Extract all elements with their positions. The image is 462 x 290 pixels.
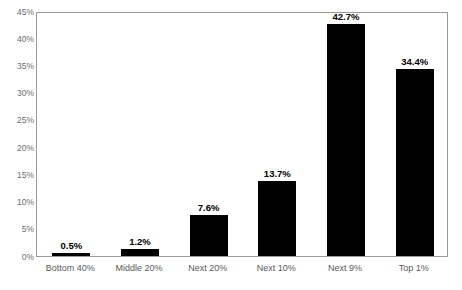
bar-group: 34.4% — [380, 13, 449, 256]
bar-value-label: 7.6% — [198, 202, 220, 213]
y-axis-tick-label: 5% — [2, 225, 34, 234]
x-axis-category-label: Next 9% — [311, 262, 380, 274]
bar[interactable] — [258, 181, 296, 256]
plot-area: 0.5%1.2%7.6%13.7%42.7%34.4% — [36, 12, 448, 257]
bar-value-label: 42.7% — [333, 11, 360, 22]
x-axis-category-label: Middle 20% — [105, 262, 174, 274]
y-axis-tick-label: 10% — [2, 198, 34, 207]
y-axis: 0%5%10%15%20%25%30%35%40%45% — [0, 0, 34, 258]
bar-chart: 0%5%10%15%20%25%30%35%40%45% 0.5%1.2%7.6… — [0, 0, 462, 290]
bar[interactable] — [52, 253, 90, 256]
x-axis: Bottom 40%Middle 20%Next 20%Next 10%Next… — [36, 262, 448, 282]
x-axis-category-label: Next 10% — [242, 262, 311, 274]
bar-group: 7.6% — [174, 13, 243, 256]
bar-value-label: 1.2% — [129, 236, 151, 247]
x-axis-category-label: Next 20% — [173, 262, 242, 274]
y-axis-tick-label: 35% — [2, 62, 34, 71]
x-axis-category-label: Top 1% — [379, 262, 448, 274]
bars-layer: 0.5%1.2%7.6%13.7%42.7%34.4% — [37, 13, 447, 256]
bar-value-label: 0.5% — [61, 240, 83, 251]
bar[interactable] — [396, 69, 434, 256]
y-axis-tick-label: 30% — [2, 89, 34, 98]
bar[interactable] — [327, 24, 365, 256]
bar-value-label: 13.7% — [264, 168, 291, 179]
bar-group: 0.5% — [37, 13, 106, 256]
y-axis-tick-label: 45% — [2, 8, 34, 17]
bar[interactable] — [190, 215, 228, 256]
bar[interactable] — [121, 249, 159, 256]
bar-value-label: 34.4% — [401, 56, 428, 67]
x-axis-category-label: Bottom 40% — [36, 262, 105, 274]
bar-group: 1.2% — [106, 13, 175, 256]
bar-group: 13.7% — [243, 13, 312, 256]
y-axis-tick-label: 15% — [2, 171, 34, 180]
y-axis-tick-label: 20% — [2, 144, 34, 153]
bar-group: 42.7% — [312, 13, 381, 256]
chart-title — [0, 0, 462, 4]
y-axis-tick-label: 0% — [2, 253, 34, 262]
y-axis-tick-label: 40% — [2, 35, 34, 44]
y-axis-tick-label: 25% — [2, 116, 34, 125]
